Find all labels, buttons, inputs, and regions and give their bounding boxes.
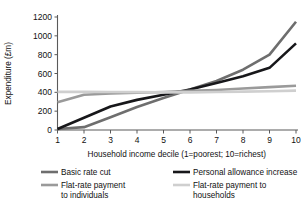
y-tick-label: 200	[38, 106, 52, 116]
legend-label-line2: households	[193, 191, 235, 200]
legend-label: Basic rate cut	[61, 168, 111, 177]
x-axis-tick-group: 12345678910	[55, 130, 301, 145]
y-tick-label: 0	[47, 125, 52, 135]
x-tick-label: 4	[135, 135, 140, 145]
chart-figure: 020040060080010001200 12345678910 Expend…	[0, 0, 308, 210]
x-tick-label: 3	[108, 135, 113, 145]
x-tick-label: 9	[267, 135, 272, 145]
y-tick-label: 1000	[33, 31, 52, 41]
y-axis-tick-group: 020040060080010001200	[33, 12, 57, 135]
series-group	[58, 22, 297, 129]
y-tick-label: 400	[38, 87, 52, 97]
x-tick-label: 5	[161, 135, 166, 145]
x-tick-label: 7	[214, 135, 219, 145]
x-tick-label: 10	[291, 135, 301, 145]
series-line	[58, 43, 297, 129]
x-axis-title: Household income decile (1=poorest; 10=r…	[88, 150, 267, 159]
y-tick-label: 600	[38, 69, 52, 79]
x-tick-label: 1	[55, 135, 60, 145]
legend-label: Flat-rate payment to	[193, 181, 267, 190]
legend-label: Personal allowance increase	[193, 168, 298, 177]
legend-label-line2: to individuals	[61, 191, 108, 200]
chart-legend: Basic rate cutPersonal allowance increas…	[41, 168, 298, 200]
y-tick-label: 800	[38, 50, 52, 60]
line-chart: 020040060080010001200 12345678910 Expend…	[0, 0, 308, 210]
y-axis-title: Expenditure (£m)	[4, 42, 13, 105]
x-tick-label: 2	[82, 135, 87, 145]
x-tick-label: 8	[241, 135, 246, 145]
x-tick-label: 6	[188, 135, 193, 145]
y-tick-label: 1200	[33, 12, 52, 22]
legend-label: Flat-rate payment	[61, 181, 126, 190]
